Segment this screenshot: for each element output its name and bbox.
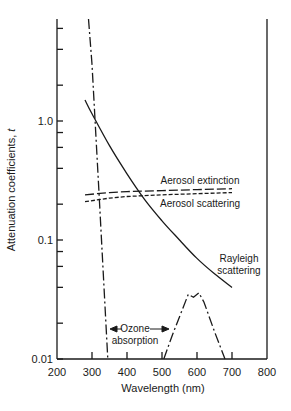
y-tick-label: 0.1 xyxy=(38,234,53,246)
x-tick-label: 200 xyxy=(48,366,66,378)
aerosol-extinction-line xyxy=(85,189,232,195)
label-ozone-2: absorption xyxy=(112,335,159,346)
x-tick-label: 600 xyxy=(188,366,206,378)
x-ticks: 200300400500600700800 xyxy=(48,352,276,378)
label-aerosol-extinction: Aerosol extinction xyxy=(161,175,240,186)
y-axis-title: Attenuation coefficients, t xyxy=(5,128,17,252)
y-tick-label: 0.01 xyxy=(32,353,53,365)
label-rayleigh-2: scattering xyxy=(217,265,260,276)
rayleigh-scattering-line xyxy=(85,100,232,287)
arrow-left-head xyxy=(110,326,117,332)
data-series xyxy=(85,19,232,359)
y-tick-label: 1.0 xyxy=(38,115,53,127)
attenuation-chart: 0.010.11.0 200300400500600700800 Wavelen… xyxy=(0,0,291,411)
x-tick-label: 700 xyxy=(223,366,241,378)
label-ozone-1: Ozone xyxy=(120,323,150,334)
label-aerosol-scattering: Aerosol scattering xyxy=(160,198,240,209)
plot-axes xyxy=(57,19,267,359)
x-tick-label: 500 xyxy=(153,366,171,378)
label-rayleigh-1: Rayleigh xyxy=(220,253,259,264)
ozone-absorption-chappuis-band-line xyxy=(164,293,225,359)
arrow-right-head xyxy=(162,326,169,332)
x-tick-label: 800 xyxy=(258,366,276,378)
x-axis-title: Wavelength (nm) xyxy=(121,382,204,394)
x-tick-label: 400 xyxy=(118,366,136,378)
y-ticks: 0.010.11.0 xyxy=(32,28,63,365)
x-tick-label: 300 xyxy=(83,366,101,378)
ozone-absorption-uv-hartley-huggins-line xyxy=(89,19,108,359)
